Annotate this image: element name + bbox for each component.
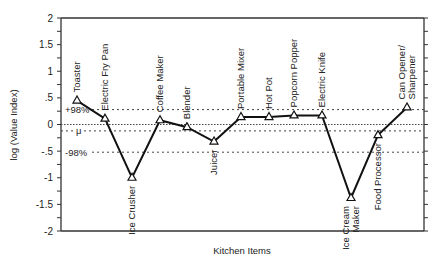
data-point-marker (403, 103, 411, 110)
reference-line-label: μ (76, 125, 81, 136)
x-axis-title: Kitchen Items (213, 245, 271, 256)
category-label: Maker (350, 206, 361, 232)
y-tick-label: -1.5 (36, 199, 54, 210)
data-point-marker (128, 173, 136, 180)
y-tick-label: 2 (47, 13, 53, 24)
category-label: Electric Fry Pan (99, 44, 110, 111)
y-tick-label: -1 (44, 172, 53, 183)
category-label: Blender (181, 86, 192, 119)
data-point-marker (347, 193, 355, 200)
category-label: Food Processor (372, 143, 383, 210)
category-label: Electric Knife (316, 52, 327, 107)
category-label: Popcorn Popper (288, 39, 299, 108)
reference-line-label: -98% (65, 147, 88, 158)
category-label: Portable Mixer (235, 48, 246, 109)
data-point-marker (156, 116, 164, 123)
category-label: Hot Pot (263, 77, 274, 109)
category-label: Toaster (71, 61, 82, 92)
data-series (73, 96, 411, 200)
y-tick-label: 0 (47, 119, 53, 130)
data-point-marker (73, 96, 81, 103)
reference-lines: +98%μ-98% (61, 104, 424, 158)
category-label: Ice Crusher (126, 186, 137, 235)
y-tick-label: 1.5 (39, 39, 53, 50)
y-tick-label: -.5 (41, 146, 53, 157)
category-labels: ToasterElectric Fry PanIce CrusherCoffee… (71, 39, 417, 250)
category-label: Coffee Maker (154, 55, 165, 112)
y-tick-label: 1 (47, 66, 53, 77)
y-tick-label: -2 (44, 226, 53, 237)
category-label: Sharpener (406, 55, 417, 99)
y-tick-label: .5 (45, 92, 54, 103)
y-axis-title: log (Value Index) (8, 89, 19, 160)
line-chart: +98%μ-98% 21.51.50-.5-1-1.5-2 ToasterEle… (0, 0, 448, 262)
category-label: Juicer (208, 150, 219, 175)
